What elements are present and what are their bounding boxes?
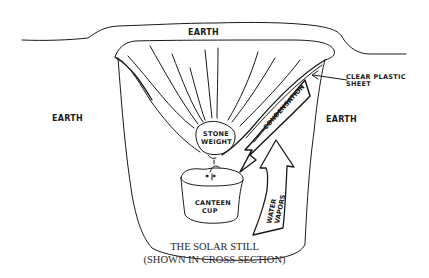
earth-left-label: EARTH [52, 115, 83, 123]
stone-weight-label-line1: STONE [203, 130, 229, 138]
earth-top-label: EARTH [188, 29, 219, 37]
plastic-rim [115, 40, 335, 60]
diagram-title: THE SOLAR STILL [0, 240, 429, 253]
canteen-cup-label-line2: CUP [202, 207, 218, 215]
canteen-cup-handle [210, 166, 220, 172]
stone-weight-label-line2: WEIGHT [201, 138, 232, 146]
plastic-left-side [115, 57, 200, 152]
solar-still-diagram: CONDENSATION WATER VAPORS EARTH EARTH EA… [0, 0, 429, 278]
plastic-sheet-label-line2: SHEET [346, 80, 371, 88]
earth-right-label: EARTH [326, 116, 357, 124]
canteen-cup-label-line1: CANTEEN [195, 199, 231, 207]
diagram-subtitle: (SHOWN IN CROSS SECTION) [0, 253, 429, 266]
